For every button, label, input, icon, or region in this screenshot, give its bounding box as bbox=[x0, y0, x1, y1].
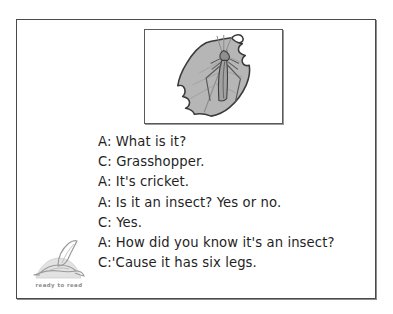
dialogue-line: A: It's cricket. bbox=[98, 172, 378, 192]
leaf-with-grasshopper-illustration bbox=[145, 30, 282, 123]
dialogue-line: A: How did you know it's an insect? bbox=[98, 233, 378, 253]
dialogue-line: C: Yes. bbox=[98, 213, 378, 233]
screenshot-root: A: What is it? C: Grasshopper. A: It's c… bbox=[0, 0, 393, 314]
dialogue-line: C:'Cause it has six legs. bbox=[98, 253, 378, 273]
ready-to-read-logo: ready to read bbox=[22, 232, 94, 296]
dialogue-line: A: Is it an insect? Yes or no. bbox=[98, 193, 378, 213]
dialogue-line: A: What is it? bbox=[98, 132, 378, 152]
logo-caption: ready to read bbox=[23, 282, 95, 288]
illustration-panel bbox=[144, 29, 283, 124]
dialogue-line: C: Grasshopper. bbox=[98, 152, 378, 172]
flying-bird-logo-icon bbox=[22, 232, 94, 282]
dialogue-block: A: What is it? C: Grasshopper. A: It's c… bbox=[98, 132, 378, 273]
page-frame: A: What is it? C: Grasshopper. A: It's c… bbox=[16, 19, 376, 299]
